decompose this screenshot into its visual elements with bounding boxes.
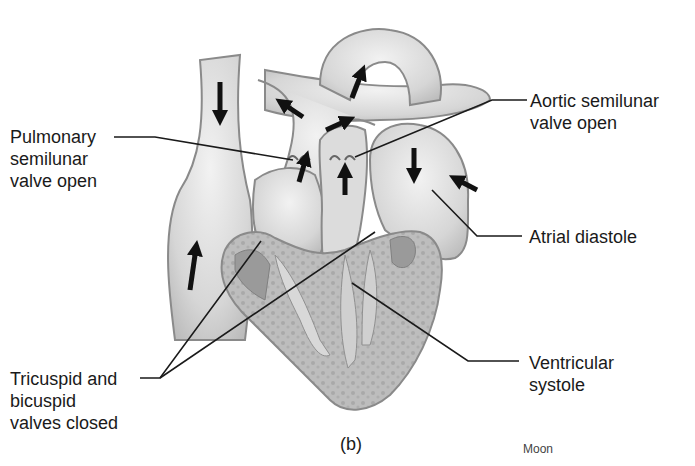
label-av-valves-closed: Tricuspid and bicuspid valves closed — [10, 368, 118, 434]
label-pulmonary-semilunar-valve: Pulmonary semilunar valve open — [10, 126, 97, 192]
label-aortic-semilunar-valve: Aortic semilunar valve open — [530, 90, 659, 134]
panel-caption: (b) — [340, 434, 362, 455]
label-atrial-diastole: Atrial diastole — [529, 226, 637, 248]
label-ventricular-systole: Ventricular systole — [529, 352, 614, 396]
credit-text: Moon — [523, 442, 553, 456]
heart-diagram: Pulmonary semilunar valve open Aortic se… — [0, 0, 695, 466]
